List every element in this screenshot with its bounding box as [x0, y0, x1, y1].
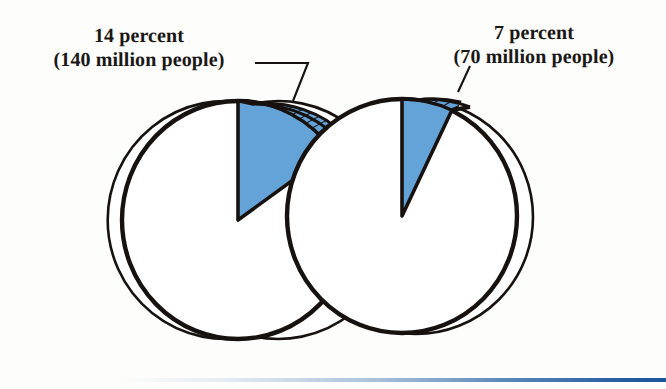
- pie-pair-figure: 14 percent (140 million people) 7 percen…: [0, 0, 666, 389]
- right-annotation-label: 7 percent (70 million people): [410, 22, 658, 69]
- left-annotation-line2: (140 million people): [14, 49, 264, 73]
- right-annotation-line1: 7 percent: [410, 22, 658, 46]
- left-annotation-label: 14 percent (140 million people): [14, 25, 264, 72]
- bottom-accent-rule: [120, 378, 666, 382]
- left-annotation-line1: 14 percent: [14, 25, 264, 49]
- right-pie-group: [287, 99, 533, 334]
- right-label-leader-line: [458, 66, 470, 92]
- right-annotation-line2: (70 million people): [410, 46, 658, 70]
